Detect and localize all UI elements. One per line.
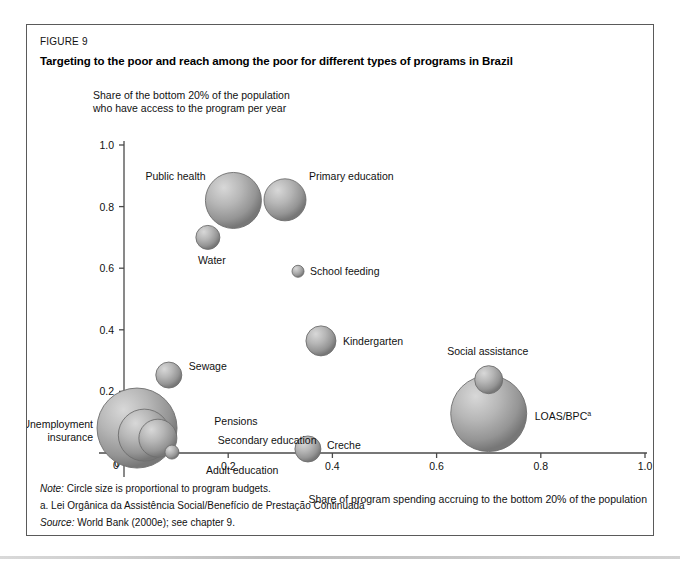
bubble-circle[interactable] [196,225,220,249]
x-tick-label: 0.6 [429,460,444,472]
bubble-label-superscript: a [587,410,591,417]
bubble-circle[interactable] [475,366,503,394]
y-tick-label: 0.4 [99,324,114,336]
chart-svg: 00.20.40.60.81.000.20.40.60.81.0 Public … [27,25,655,537]
y-tick-label: 1.0 [99,139,114,151]
bubble-circle[interactable] [292,265,304,277]
bubble[interactable] [264,179,306,221]
bubble[interactable] [475,366,503,394]
bubble-label: Sewage [189,360,227,372]
source-line: Source: World Bank (2000e); see chapter … [40,514,640,531]
bubble[interactable] [165,445,179,459]
y-tick-label: 0.8 [99,201,114,213]
bubble-label: Unemployment [27,418,93,430]
bubble-label: Water [198,254,226,266]
bubble[interactable] [156,362,182,388]
bubble-label: Primary education [309,170,394,182]
footnote-line: a. Lei Orgânica da Assistência Social/Be… [40,497,640,514]
source-text: World Bank (2000e); see chapter 9. [77,517,235,528]
bubble-label: Creche [327,439,361,451]
bubble-label: Kindergarten [343,335,403,347]
bubble[interactable] [306,326,336,356]
bubble-circle[interactable] [306,326,336,356]
bubble-label: Public health [145,170,205,182]
page-bottom-rule [0,556,680,559]
x-tick-label: 0.8 [533,460,548,472]
bubble-circle[interactable] [205,172,261,228]
x-tick-label: 0.4 [325,460,340,472]
figure-card: FIGURE 9 Targeting to the poor and reach… [26,24,654,536]
bubble-circle[interactable] [165,445,179,459]
bubble-circle[interactable] [264,179,306,221]
bubbles-layer [97,172,527,468]
bubble-chart-plot: 00.20.40.60.81.000.20.40.60.81.0 Public … [27,25,655,537]
bubble[interactable] [205,172,261,228]
bubble-label: School feeding [310,265,380,277]
axes-layer: 00.20.40.60.81.000.20.40.60.81.0 [99,139,652,477]
note-label: Note: [40,483,64,494]
bubble-label: LOAS/BPCa [535,410,592,422]
bubble-circle[interactable] [156,362,182,388]
note-line: Note: Circle size is proportional to pro… [40,480,640,497]
note-text: Circle size is proportional to program b… [67,483,271,494]
bubble-label: insurance [47,431,93,443]
bubble-label: Social assistance [447,345,528,357]
figure-notes: Note: Circle size is proportional to pro… [40,480,640,531]
y-tick-label: 0.6 [99,262,114,274]
bubble-label: Adult education [206,464,279,476]
x-tick-label: 1.0 [638,460,653,472]
y-tick-label: 0.2 [99,385,114,397]
source-label: Source: [40,517,74,528]
bubble[interactable] [292,265,304,277]
bubble-label: Secondary education [218,434,317,446]
bubble-label: Pensions [214,415,257,427]
bubble[interactable] [196,225,220,249]
